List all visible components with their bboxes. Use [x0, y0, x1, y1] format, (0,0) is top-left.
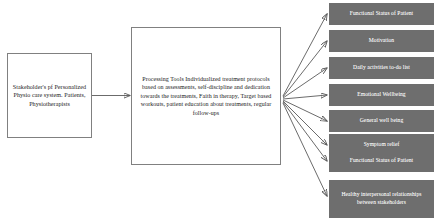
edge-processing-to-motivation: [283, 41, 327, 97]
outcome-node-functional-status-of-patient-1: Functional Status of Patient: [329, 3, 434, 25]
edge-processing-to-daily-activities: [283, 68, 327, 98]
edge-processing-to-healthy-relationships: [283, 103, 327, 196]
outcome-node-emotional-wellbeing: Emotional Wellbeing: [329, 84, 434, 106]
outcome-node-functional-status-of-patient-2: Functional Status of Patient: [329, 150, 434, 172]
outcome-label: Healthy interpersonal relationships betw…: [330, 191, 433, 206]
outcome-node-healthy-interpersonal-relationships: Healthy interpersonal relationships betw…: [329, 180, 434, 218]
outcome-label: Functional Status of Patient: [347, 10, 416, 18]
outcome-node-general-well-being: General well being: [329, 110, 434, 132]
edge-processing-to-emotional-wellbeing: [283, 95, 327, 99]
outcome-label: Emotional Wellbeing: [354, 91, 408, 99]
stakeholders-input-label: Stakeholder's pf Personalized Physio car…: [8, 83, 91, 108]
outcome-label: Motivation: [366, 37, 397, 45]
outcome-label: Symptom relief: [361, 141, 403, 149]
outcome-label: Functional Status of Patient: [347, 157, 416, 165]
outcome-node-daily-activities-to-do-list: Daily activities to-do list: [329, 57, 434, 79]
outcome-node-motivation: Motivation: [329, 30, 434, 52]
edge-processing-to-functional-status-1: [283, 14, 327, 96]
processing-tools-node: Processing Tools Individualized treatmen…: [131, 27, 281, 165]
edge-processing-to-general-well-being: [283, 100, 327, 121]
outcome-label: Daily activities to-do list: [350, 64, 413, 72]
edge-processing-to-functional-status-2: [283, 102, 327, 161]
outcome-label: General well being: [357, 117, 406, 125]
stakeholders-input-node: Stakeholder's pf Personalized Physio car…: [7, 53, 92, 138]
edge-processing-to-symptom-relief: [283, 101, 327, 145]
process-flow-diagram: Stakeholder's pf Personalized Physio car…: [0, 0, 436, 218]
processing-tools-label: Processing Tools Individualized treatmen…: [132, 75, 280, 118]
